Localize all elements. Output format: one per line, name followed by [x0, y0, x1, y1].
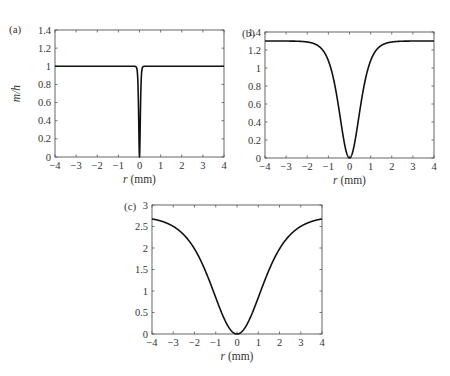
y-tick-label: 0.4: [248, 117, 262, 128]
y-tick-label: 1.5: [135, 264, 148, 275]
y-tick-label: 0: [256, 153, 261, 164]
x-tick-label: −2: [302, 161, 313, 172]
y-axis-label: m/h: [10, 85, 22, 103]
chart-panel-c: −4−3−2−10123400.511.522.53r (mm)(c): [124, 200, 325, 364]
x-tick-label: −1: [113, 160, 124, 171]
x-tick-label: 1: [368, 161, 373, 172]
axes-box: [152, 205, 322, 334]
x-tick-label: 0: [137, 160, 142, 171]
y-tick-label: 1: [143, 286, 148, 297]
x-axis-label: r (mm): [221, 350, 254, 363]
y-tick-label: 1: [256, 63, 261, 74]
x-tick-label: 3: [410, 161, 415, 172]
y-tick-label: 0.8: [38, 79, 51, 90]
x-tick-label: 4: [221, 160, 227, 171]
x-tick-label: −2: [92, 160, 103, 171]
figure: −4−3−2−10123400.20.40.60.811.21.4r (mm)m…: [0, 0, 450, 376]
x-tick-label: 2: [179, 160, 184, 171]
y-tick-label: 1: [46, 61, 51, 72]
y-tick-label: 0: [46, 152, 51, 163]
x-tick-label: 4: [319, 337, 325, 348]
x-tick-label: −3: [168, 337, 179, 348]
x-tick-label: −4: [259, 161, 271, 172]
panel-label: (c): [124, 200, 137, 213]
y-tick-label: 0.5: [135, 307, 148, 318]
panel-label: (b): [242, 27, 255, 40]
x-tick-label: 0: [234, 337, 239, 348]
chart-panel-a: −4−3−2−10123400.20.40.60.811.21.4r (mm)m…: [9, 23, 227, 186]
x-tick-label: 1: [158, 160, 163, 171]
y-tick-label: 1.2: [248, 45, 261, 56]
y-tick-label: 0.2: [38, 133, 51, 144]
chart-panel-b: −4−3−2−10123400.20.40.60.811.21.4r (mm)(…: [242, 27, 437, 188]
x-axis-label: r (mm): [123, 173, 156, 186]
x-tick-label: −3: [71, 160, 82, 171]
y-tick-label: 2: [143, 243, 148, 254]
y-tick-label: 0.6: [248, 99, 261, 110]
x-tick-label: −1: [323, 161, 334, 172]
x-tick-label: 2: [389, 161, 394, 172]
x-tick-label: −4: [146, 337, 158, 348]
x-tick-label: 4: [431, 161, 437, 172]
y-tick-label: 0.6: [38, 97, 51, 108]
y-tick-label: 0.2: [248, 135, 261, 146]
y-tick-label: 0.4: [38, 115, 52, 126]
panel-label: (a): [9, 23, 22, 36]
x-tick-label: 0: [347, 161, 352, 172]
data-curve: [55, 66, 224, 157]
axes-box: [265, 32, 434, 158]
x-tick-label: 3: [200, 160, 205, 171]
x-tick-label: 2: [277, 337, 282, 348]
y-tick-label: 0.8: [248, 81, 261, 92]
y-tick-label: 0: [143, 329, 148, 340]
x-tick-label: 1: [256, 337, 261, 348]
x-tick-label: −2: [189, 337, 200, 348]
x-axis-label: r (mm): [333, 174, 366, 187]
data-curve: [152, 219, 322, 334]
x-tick-label: −4: [49, 160, 61, 171]
x-tick-label: 3: [298, 337, 303, 348]
data-curve: [265, 41, 434, 158]
y-tick-label: 3: [143, 200, 148, 211]
x-tick-label: −1: [210, 337, 221, 348]
y-tick-label: 1.2: [38, 43, 51, 54]
y-tick-label: 1.4: [38, 25, 52, 36]
y-tick-label: 2.5: [135, 221, 148, 232]
x-tick-label: −3: [281, 161, 292, 172]
